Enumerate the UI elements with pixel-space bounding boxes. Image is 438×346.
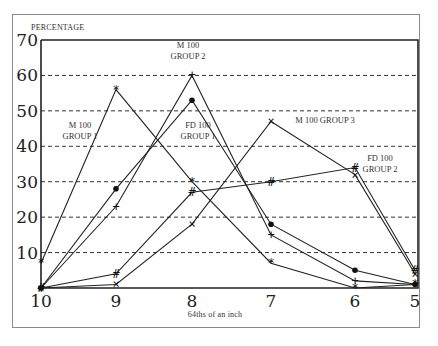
x-tick-label: 9 [111, 291, 122, 311]
y-tick-label: 40 [16, 136, 38, 156]
point-marker-icon: + [267, 228, 274, 242]
line-chart: PERCENTAGE 10203040506070 1098765 64ths … [0, 0, 438, 346]
point-marker-icon: # [37, 281, 45, 295]
series-annotation: M 100 GROUP 3 [295, 115, 354, 125]
series: ×××××× [37, 114, 418, 295]
series: ++++++ [37, 68, 418, 295]
point-marker-icon: + [351, 274, 358, 288]
point-marker-icon: # [188, 185, 196, 199]
y-tick-label: 10 [16, 243, 38, 263]
series-annotation: FD 100GROUP 1 [181, 120, 216, 141]
y-axis-label: PERCENTAGE [31, 23, 84, 32]
series: ****** [37, 83, 418, 295]
point-marker-icon: + [188, 68, 195, 82]
series-annotation: M 100GROUP 2 [171, 40, 206, 61]
y-tick-label: 20 [16, 207, 38, 227]
series-annotation: FD 100GROUP 2 [363, 153, 398, 174]
point-marker-icon: # [411, 263, 419, 277]
dot-marker-icon [113, 186, 119, 192]
series-group: ******++++++××××××###### [37, 68, 419, 295]
x-tick-label: 7 [266, 291, 277, 311]
point-marker-icon: * [37, 256, 44, 270]
series-line [41, 100, 415, 288]
series-annotations: M 100GROUP 1M 100GROUP 2FD 100GROUP 1M 1… [63, 40, 398, 174]
point-marker-icon: # [112, 267, 120, 281]
y-tick-label: 50 [16, 101, 38, 121]
x-tick-label: 5 [410, 291, 421, 311]
point-marker-icon: × [267, 114, 274, 128]
point-marker-icon: * [267, 256, 274, 270]
point-marker-icon: # [351, 161, 359, 175]
y-tick-labels: 10203040506070 [16, 30, 38, 263]
point-marker-icon: × [188, 217, 195, 231]
y-tick-label: 70 [16, 30, 38, 50]
axes [41, 40, 418, 288]
y-tick-label: 60 [16, 65, 38, 85]
y-tick-label: 30 [16, 172, 38, 192]
dot-marker-icon [268, 221, 274, 227]
series-line [41, 90, 415, 288]
dot-marker-icon [352, 267, 358, 273]
series-annotation: M 100GROUP 1 [63, 120, 98, 141]
dot-marker-icon [412, 282, 418, 288]
point-marker-icon: # [267, 175, 275, 189]
x-axis-label: 64ths of an inch [188, 310, 243, 319]
point-marker-icon: * [112, 83, 119, 97]
x-tick-label: 8 [187, 291, 198, 311]
point-marker-icon: + [112, 200, 119, 214]
dot-marker-icon [189, 97, 195, 103]
series [38, 97, 418, 290]
x-tick-labels: 1098765 [30, 291, 420, 311]
series: ###### [37, 161, 419, 295]
